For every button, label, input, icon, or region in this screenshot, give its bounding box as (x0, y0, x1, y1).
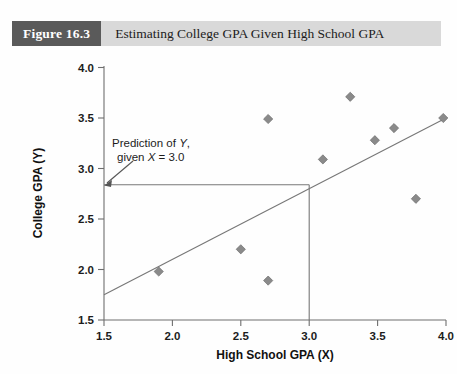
y-axis-title: College GPA (Y) (31, 148, 45, 239)
x-tick-label: 3.0 (301, 330, 317, 342)
annotation-leader-line (107, 161, 133, 183)
y-tick-label: 2.0 (78, 264, 94, 276)
y-axis-tick-labels: 4.0 3.5 3.0 2.5 2.0 1.5 (78, 62, 95, 327)
x-tick-label: 3.5 (370, 330, 387, 342)
data-point (389, 124, 398, 133)
x-tick-label: 2.5 (233, 330, 250, 342)
anno-suffix2: = 3.0 (155, 151, 184, 163)
data-point (236, 245, 245, 254)
x-axis-ticks (104, 320, 446, 326)
data-point (346, 92, 355, 101)
data-points-layer (154, 92, 448, 285)
y-tick-label: 2.5 (78, 213, 95, 225)
y-tick-label: 3.5 (78, 112, 95, 124)
y-axis-ticks (98, 68, 104, 321)
scatter-plot: 4.0 3.5 3.0 2.5 2.0 1.5 1.5 2.0 2.5 3. (0, 0, 457, 374)
annotation-arrowhead (104, 180, 112, 187)
x-tick-label: 4.0 (438, 330, 454, 342)
anno-suffix: , (187, 137, 190, 149)
figure-root: Figure 16.3 Estimating College GPA Given… (0, 0, 457, 374)
anno-prefix2: given (117, 151, 148, 163)
chart-svg: 4.0 3.5 3.0 2.5 2.0 1.5 1.5 2.0 2.5 3. (0, 0, 457, 374)
y-tick-label: 1.5 (78, 314, 95, 326)
data-point (370, 136, 379, 145)
prediction-annotation-line1: Prediction of Y, (112, 137, 190, 149)
data-point (318, 155, 327, 164)
x-tick-label: 2.0 (164, 330, 180, 342)
x-axis-title: High School GPA (X) (216, 348, 333, 362)
y-tick-label: 4.0 (78, 62, 94, 74)
x-tick-label: 1.5 (96, 330, 113, 342)
data-point (411, 194, 420, 203)
data-point (264, 276, 273, 285)
prediction-annotation-line2: given X = 3.0 (117, 151, 184, 163)
x-axis-tick-labels: 1.5 2.0 2.5 3.0 3.5 4.0 (96, 330, 454, 342)
data-point (264, 114, 273, 123)
y-tick-label: 3.0 (78, 163, 94, 175)
anno-prefix: Prediction of (112, 137, 179, 149)
